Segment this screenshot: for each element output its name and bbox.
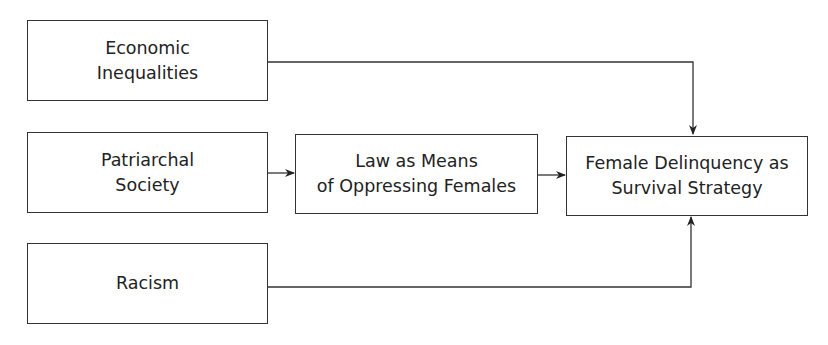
- node-label-line: of Oppressing Females: [317, 174, 516, 199]
- node-label-line: Survival Strategy: [585, 176, 788, 201]
- node-label-line: Racism: [116, 271, 179, 296]
- node-label-line: Society: [101, 173, 194, 198]
- node-label-line: Economic: [97, 36, 198, 61]
- edge-economic-to-delinquency: [268, 62, 693, 134]
- node-label-line: Female Delinquency as: [585, 151, 788, 176]
- node-law-as-means: Law as Meansof Oppressing Females: [295, 134, 538, 214]
- node-patriarchal-society: PatriarchalSociety: [27, 132, 268, 213]
- node-female-delinquency: Female Delinquency asSurvival Strategy: [566, 136, 808, 216]
- edge-racism-to-delinquency: [267, 217, 691, 287]
- node-label-line: Patriarchal: [101, 148, 194, 173]
- node-label-line: Inequalities: [97, 61, 198, 86]
- node-label-line: Law as Means: [317, 149, 516, 174]
- node-racism: Racism: [27, 243, 268, 324]
- node-economic-inequalities: EconomicInequalities: [27, 20, 268, 101]
